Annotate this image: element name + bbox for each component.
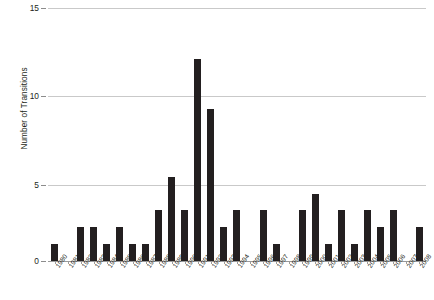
- bar-slot: [100, 8, 113, 261]
- y-tick-label-5: 5: [34, 180, 39, 190]
- x-tick-slot: 1987: [139, 264, 152, 294]
- x-tick-slot: 1985: [113, 264, 126, 294]
- x-tick-slot: 1988: [152, 264, 165, 294]
- plot-area: 15 10 5 0: [48, 8, 426, 262]
- bar-slot: [74, 8, 87, 261]
- bar-slot: [230, 8, 243, 261]
- y-tick-label-15: 15: [30, 3, 39, 13]
- x-axis-tick-labels: 1980198119821983198419851986198719881989…: [48, 264, 426, 294]
- x-tick-slot: 1993: [217, 264, 230, 294]
- bar-slot: [296, 8, 309, 261]
- x-tick-slot: 1992: [204, 264, 217, 294]
- bar[interactable]: [299, 210, 306, 261]
- x-tick-slot: 1995: [243, 264, 256, 294]
- bar-slot: [126, 8, 139, 261]
- bar[interactable]: [364, 210, 371, 261]
- tickmark-15: [41, 8, 46, 9]
- x-tick-slot: 1982: [74, 264, 87, 294]
- bar[interactable]: [260, 210, 267, 261]
- bar[interactable]: [338, 210, 345, 261]
- bar-slot: [361, 8, 374, 261]
- bar-slot: [165, 8, 178, 261]
- bar[interactable]: [168, 177, 175, 261]
- x-tick-slot: 2000: [309, 264, 322, 294]
- bar-series: [48, 8, 426, 261]
- x-tick-slot: 2004: [361, 264, 374, 294]
- bar-slot: [413, 8, 426, 261]
- x-tick-slot: 2008: [413, 264, 426, 294]
- bar-slot: [348, 8, 361, 261]
- x-tick-slot: 1998: [283, 264, 296, 294]
- x-tick-slot: 1983: [87, 264, 100, 294]
- x-tick-slot: 1986: [126, 264, 139, 294]
- bar-slot: [335, 8, 348, 261]
- bar-slot: [243, 8, 256, 261]
- bar-slot: [113, 8, 126, 261]
- y-axis-title: Number of Transitions: [20, 29, 29, 189]
- bar[interactable]: [194, 59, 201, 261]
- figure: Number of Transitions 15 10 5 0 19801981…: [0, 0, 434, 300]
- x-tick-slot: 1996: [257, 264, 270, 294]
- x-tick-slot: 2007: [400, 264, 413, 294]
- y-tick-label-0: 0: [34, 256, 39, 266]
- tickmark-5: [41, 185, 46, 186]
- bar-slot: [191, 8, 204, 261]
- x-tick-slot: 1984: [100, 264, 113, 294]
- bar-slot: [400, 8, 413, 261]
- bar[interactable]: [155, 210, 162, 261]
- bar-slot: [87, 8, 100, 261]
- x-tick-slot: 2005: [374, 264, 387, 294]
- bar-slot: [204, 8, 217, 261]
- x-tick-slot: 1997: [270, 264, 283, 294]
- x-tick-slot: 2006: [387, 264, 400, 294]
- figure-caption: [6, 292, 426, 300]
- tickmark-10: [41, 96, 46, 97]
- bar-slot: [257, 8, 270, 261]
- x-tick-slot: 2001: [322, 264, 335, 294]
- bar[interactable]: [233, 210, 240, 261]
- bar-slot: [283, 8, 296, 261]
- bar[interactable]: [181, 210, 188, 261]
- bar-slot: [322, 8, 335, 261]
- x-tick-slot: 1981: [61, 264, 74, 294]
- bar[interactable]: [312, 194, 319, 261]
- x-tick-slot: 1990: [178, 264, 191, 294]
- x-tick-slot: 1989: [165, 264, 178, 294]
- bar-slot: [309, 8, 322, 261]
- x-tick-slot: 1980: [48, 264, 61, 294]
- x-tick-slot: 2003: [348, 264, 361, 294]
- tickmark-0: [41, 261, 46, 262]
- x-tick-slot: 1999: [296, 264, 309, 294]
- bar-slot: [217, 8, 230, 261]
- bar-slot: [374, 8, 387, 261]
- x-tick-slot: 1994: [230, 264, 243, 294]
- y-tick-label-10: 10: [30, 91, 39, 101]
- bar-slot: [139, 8, 152, 261]
- x-tick-slot: 2002: [335, 264, 348, 294]
- bar-slot: [61, 8, 74, 261]
- bar-slot: [270, 8, 283, 261]
- bar-slot: [387, 8, 400, 261]
- bar-slot: [178, 8, 191, 261]
- bar-slot: [152, 8, 165, 261]
- bar-slot: [48, 8, 61, 261]
- bar[interactable]: [207, 109, 214, 261]
- x-tick-slot: 1991: [191, 264, 204, 294]
- bar[interactable]: [390, 210, 397, 261]
